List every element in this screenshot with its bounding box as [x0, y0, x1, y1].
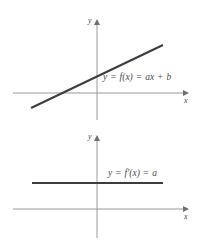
function-panel: y x y=f(x)=ax+b — [0, 0, 203, 122]
eq-f-prime-x: f′(x) — [125, 168, 140, 179]
eq-equals-1: = — [116, 168, 121, 178]
x-axis-label: x — [183, 96, 188, 105]
eq-a: a — [152, 168, 157, 178]
eq-y: y — [107, 168, 113, 178]
eq-ax: ax — [145, 72, 155, 82]
eq-equals-1: = — [111, 72, 116, 82]
function-equation-label: y=f(x)=ax+b — [102, 72, 171, 83]
eq-equals-2: = — [143, 168, 148, 178]
eq-y: y — [102, 72, 108, 82]
derivative-equation-label: y=f′(x)=a — [107, 168, 157, 179]
eq-fx: f(x) — [120, 72, 133, 83]
derivative-panel: y x y=f′(x)=a — [0, 122, 203, 244]
eq-plus: + — [158, 72, 163, 82]
x-axis-label: x — [183, 212, 188, 221]
y-axis-arrow-icon — [94, 135, 100, 141]
eq-equals-2: = — [136, 72, 141, 82]
figure-container: y x y=f(x)=ax+b y x y=f′(x)=a — [0, 0, 203, 244]
y-axis-arrow-icon — [94, 19, 100, 25]
y-axis-label: y — [87, 16, 92, 25]
y-axis-label: y — [87, 132, 92, 141]
eq-b: b — [166, 72, 171, 82]
